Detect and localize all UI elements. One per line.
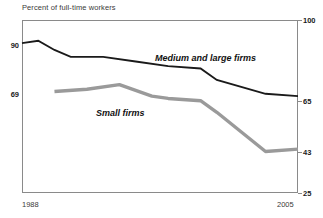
x-axis-tick-start: 1988 [22, 200, 39, 209]
left-axis-tick-90: 90 [1, 41, 19, 50]
chart-figure: Percent of full-time workers 90 69 100 6… [0, 0, 323, 218]
x-axis-tick-end: 2005 [277, 200, 294, 209]
left-axis-tick-69: 69 [1, 90, 19, 99]
tick-right-100 [298, 20, 302, 21]
line-medium-and-large-firms [22, 41, 298, 96]
right-axis-tick-25: 25 [303, 189, 311, 198]
tick-right-43 [298, 152, 302, 153]
tick-right-25 [298, 193, 302, 194]
annotation-small-firms: Small firms [96, 108, 145, 118]
line-small-firms [54, 85, 298, 152]
annotation-medium-and-large-firms: Medium and large firms [155, 53, 256, 63]
right-axis-tick-65: 65 [303, 97, 311, 106]
series-layer [22, 20, 298, 193]
right-axis-tick-43: 43 [303, 148, 311, 157]
tick-right-65 [298, 101, 302, 102]
right-axis-tick-100: 100 [303, 16, 316, 25]
chart-title: Percent of full-time workers [22, 3, 116, 12]
